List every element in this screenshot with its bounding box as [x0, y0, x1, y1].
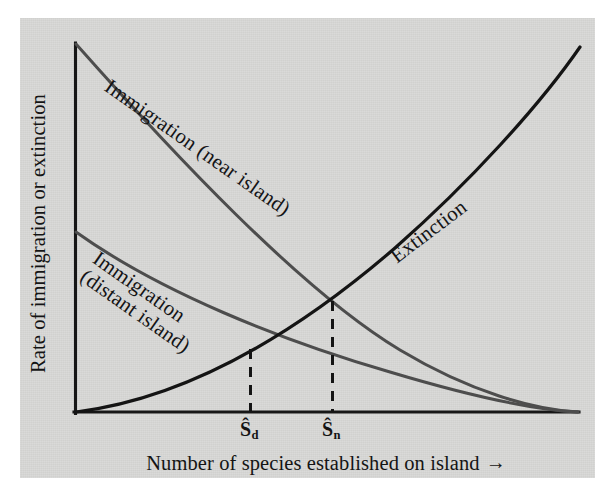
tick-label-s-near: Ŝn [322, 418, 340, 443]
x-axis-label: Number of species established on island→ [76, 452, 576, 475]
right-arrow-icon: → [486, 451, 506, 474]
tick-label-s-distant-subscript: d [251, 428, 258, 442]
figure-root: Rate of immigration or extinction Number… [0, 0, 612, 502]
x-axis-label-text: Number of species established on island [146, 452, 480, 474]
tick-label-s-near-subscript: n [333, 428, 340, 442]
tick-label-s-near-symbol: Ŝ [322, 418, 333, 440]
curve-immigration-near-island [76, 44, 578, 412]
tick-label-s-distant-symbol: Ŝ [240, 418, 251, 440]
plot-canvas [0, 0, 612, 502]
tick-label-s-distant: Ŝd [240, 418, 258, 443]
y-axis-label: Rate of immigration or extinction [27, 84, 50, 384]
